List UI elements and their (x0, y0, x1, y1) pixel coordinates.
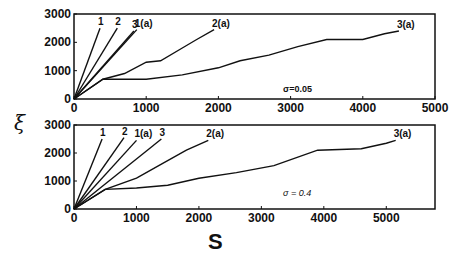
sigma-annotation: σ = 0.4 (283, 188, 311, 198)
x-tick-label: 0 (71, 211, 78, 225)
series-line-2(a) (74, 140, 208, 209)
series-label: 1(a) (135, 18, 153, 29)
x-tick-label: 3000 (248, 211, 275, 225)
y-tick-label: 1000 (44, 64, 71, 78)
series-line-3(a) (74, 31, 399, 99)
x-tick-label: 5000 (422, 101, 449, 115)
x-tick-label: 1000 (133, 101, 160, 115)
series-line-3(a) (74, 140, 396, 209)
series-line-1(a) (74, 140, 137, 209)
series-label: 3(a) (394, 128, 412, 139)
chart-figure: 01000200030004000500001000200030001231(a… (0, 0, 456, 255)
y-tick-label: 3000 (44, 7, 71, 21)
sigma-annotation: σ=0.05 (283, 84, 312, 94)
y-axis-label: ξ (14, 111, 26, 135)
series-label: 2(a) (212, 18, 230, 29)
y-tick-label: 2000 (44, 35, 71, 49)
series-label: 2 (122, 126, 128, 137)
y-tick-label: 0 (64, 202, 71, 216)
x-tick-label: 3000 (277, 101, 304, 115)
series-line-3 (74, 139, 161, 209)
x-tick-label: 5000 (373, 211, 400, 225)
series-label: 3(a) (397, 19, 415, 30)
y-tick-label: 2000 (44, 146, 71, 160)
x-axis-label: S (208, 229, 223, 254)
series-label: 2(a) (206, 128, 224, 139)
series-line-1(a) (74, 30, 137, 99)
plot-frame (74, 14, 435, 99)
y-tick-label: 3000 (44, 118, 71, 132)
top-panel: 01000200030004000500001000200030001231(a… (44, 7, 448, 115)
bottom-panel: 0100020003000400050000100020003000121(a)… (44, 118, 435, 225)
x-tick-label: 2000 (186, 211, 213, 225)
x-tick-label: 2000 (205, 101, 232, 115)
y-tick-label: 0 (64, 92, 71, 106)
series-label: 1 (98, 16, 104, 27)
y-tick-label: 1000 (44, 174, 71, 188)
series-label: 1(a) (134, 128, 152, 139)
series-label: 1 (100, 127, 106, 138)
series-label: 3 (159, 127, 165, 138)
x-tick-label: 0 (71, 101, 78, 115)
x-tick-label: 4000 (310, 211, 337, 225)
x-tick-label: 1000 (123, 211, 150, 225)
plot-frame (74, 125, 435, 209)
x-tick-label: 4000 (349, 101, 376, 115)
series-label: 2 (115, 16, 121, 27)
